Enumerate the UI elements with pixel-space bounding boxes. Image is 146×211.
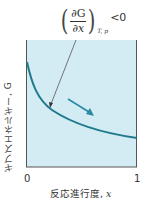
y-axis-label: ギブズエネルギー, G bbox=[1, 62, 17, 172]
x-tick-1: 1 bbox=[134, 173, 140, 184]
x-axis-label-var: x bbox=[106, 188, 111, 199]
x-axis-label: 反応進行度, x bbox=[50, 186, 111, 200]
paren-right: ) bbox=[88, 7, 96, 35]
x-tick-0: 0 bbox=[24, 173, 30, 184]
fraction-denominator: ∂x bbox=[72, 22, 84, 35]
gibbs-energy-chart: ( ∂G ∂x ) T, p <0 ギブズエネルギー, G 0 1 反応進行度,… bbox=[0, 0, 146, 211]
formula-subscript: T, p bbox=[97, 27, 108, 34]
fraction: ∂G ∂x bbox=[70, 8, 86, 35]
derivative-formula: ( ∂G ∂x ) T, p <0 bbox=[59, 4, 126, 38]
paren-left: ( bbox=[61, 7, 69, 35]
fraction-numerator: ∂G bbox=[70, 8, 86, 22]
x-axis-label-text: 反応進行度, bbox=[50, 188, 106, 199]
formula-relation: <0 bbox=[110, 11, 126, 24]
plot-area bbox=[26, 40, 137, 167]
